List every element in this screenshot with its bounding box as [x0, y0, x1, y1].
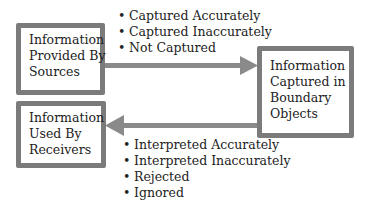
receivers-line-2: Used By	[29, 126, 104, 142]
sources-line-2: Provided By	[29, 48, 106, 64]
capture-outcomes-list: Captured Accurately Captured Inaccuratel…	[118, 8, 272, 56]
interpretation-outcomes-list: Interpreted Accurately Interpreted Inacc…	[123, 137, 291, 201]
sources-line-3: Sources	[29, 64, 106, 80]
sources-line-1: Information	[29, 32, 106, 48]
arrow-sources-to-boundary	[104, 56, 258, 75]
boundary-line-2: Captured in	[270, 74, 346, 90]
receivers-line-3: Receivers	[29, 142, 104, 158]
capture-outcome: Captured Accurately	[118, 8, 272, 24]
interpretation-outcome: Ignored	[123, 185, 291, 201]
sources-label: Information Provided By Sources	[29, 32, 106, 80]
capture-outcome: Captured Inaccurately	[118, 24, 272, 40]
interpretation-outcome: Interpreted Inaccurately	[123, 153, 291, 169]
receivers-box: Information Used By Receivers	[16, 101, 106, 168]
receivers-line-1: Information	[29, 110, 104, 126]
sources-box: Information Provided By Sources	[16, 23, 105, 95]
boundary-line-4: Objects	[270, 106, 346, 122]
boundary-objects-box: Information Captured in Boundary Objects	[257, 46, 354, 138]
boundary-line-3: Boundary	[270, 90, 346, 106]
interpretation-outcome: Rejected	[123, 169, 291, 185]
boundary-label: Information Captured in Boundary Objects	[270, 58, 346, 122]
arrow-boundary-to-receivers	[105, 115, 258, 136]
capture-outcome: Not Captured	[118, 40, 272, 56]
receivers-label: Information Used By Receivers	[29, 110, 104, 158]
boundary-line-1: Information	[270, 58, 346, 74]
interpretation-outcome: Interpreted Accurately	[123, 137, 291, 153]
